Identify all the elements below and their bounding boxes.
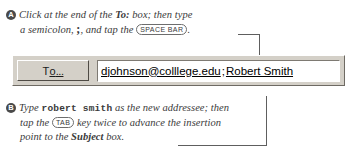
to-field-row-inner: To... djohnson@colllege.edu;Robert Smith — [14, 57, 343, 84]
to-button-label-pre: T — [43, 65, 50, 77]
step-a-line2-post: . — [187, 24, 190, 35]
space-bar-keycap: SPACE BAR — [136, 24, 187, 35]
step-b-subject-label: Subject — [71, 131, 103, 142]
step-a-line-2: a semicolon, ;, and tap the SPACE BAR. — [6, 22, 256, 37]
step-b-line-2: tap the TAB key twice to advance the ins… — [6, 116, 266, 130]
tab-keycap: TAB — [52, 117, 74, 128]
step-a-to-label: To: — [115, 9, 129, 20]
leader-line-a-horizontal — [238, 34, 260, 35]
step-b-line2-post: key twice to advance the insertion — [74, 117, 221, 128]
callout-step-b: BType robert smith as the new addressee;… — [6, 101, 266, 144]
step-a-line2-mid: , and tap the — [80, 24, 136, 35]
to-button[interactable]: To... — [17, 60, 89, 81]
step-a-line2-pre: a semicolon, — [20, 24, 76, 35]
leader-line-b-horizontal — [178, 145, 267, 146]
step-b-line-1: BType robert smith as the new addressee;… — [6, 101, 266, 116]
to-field-row: To... djohnson@colllege.edu;Robert Smith — [12, 55, 345, 86]
step-b-line2-pre: tap the — [20, 117, 52, 128]
step-b-bullet: B — [6, 103, 16, 113]
step-b-typed-text: robert smith — [42, 103, 113, 114]
step-b-line3-pre: point to the — [20, 131, 71, 142]
callout-step-a: AClick at the end of the To: box; then t… — [6, 8, 256, 37]
step-b-line1-post: as the new addressee; then — [112, 102, 229, 113]
step-a-bullet: A — [6, 10, 16, 20]
step-a-line1-pre: Click at the end of the — [19, 9, 115, 20]
to-button-ellipsis: ... — [56, 65, 64, 77]
address-email-text: djohnson@colllege.edu — [101, 65, 221, 77]
step-a-line1-post: box; then type — [130, 9, 193, 20]
step-b-line-3: point to the Subject box. — [6, 130, 266, 144]
address-name-text: Robert Smith — [226, 65, 293, 77]
address-input[interactable]: djohnson@colllege.edu;Robert Smith — [97, 60, 340, 82]
step-a-line-1: AClick at the end of the To: box; then t… — [6, 8, 256, 22]
leader-line-b-vertical — [266, 96, 267, 146]
step-b-line1-pre: Type — [19, 102, 42, 113]
step-b-line3-post: box. — [104, 131, 125, 142]
